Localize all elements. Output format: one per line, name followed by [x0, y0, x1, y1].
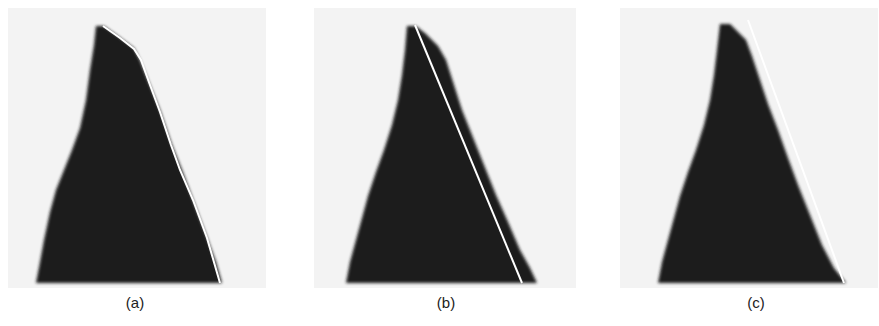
dark-wedge-shape [658, 24, 846, 283]
figure: (a) (b) (c) [0, 0, 879, 326]
image-background [620, 8, 878, 288]
panel-c-image [0, 0, 879, 326]
panel-c: (c) [0, 0, 879, 326]
straight-line-fit [748, 20, 844, 283]
panel-c-label: (c) [726, 294, 786, 311]
